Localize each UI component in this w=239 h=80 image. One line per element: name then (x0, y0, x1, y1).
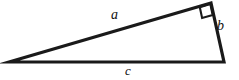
side-label-c: c (125, 64, 131, 77)
side-label-b: b (217, 19, 224, 33)
right-triangle-figure: a b c (0, 0, 239, 80)
side-label-a: a (111, 8, 118, 22)
triangle-svg-canvas (0, 0, 239, 80)
right-angle-marker-icon (200, 4, 213, 18)
